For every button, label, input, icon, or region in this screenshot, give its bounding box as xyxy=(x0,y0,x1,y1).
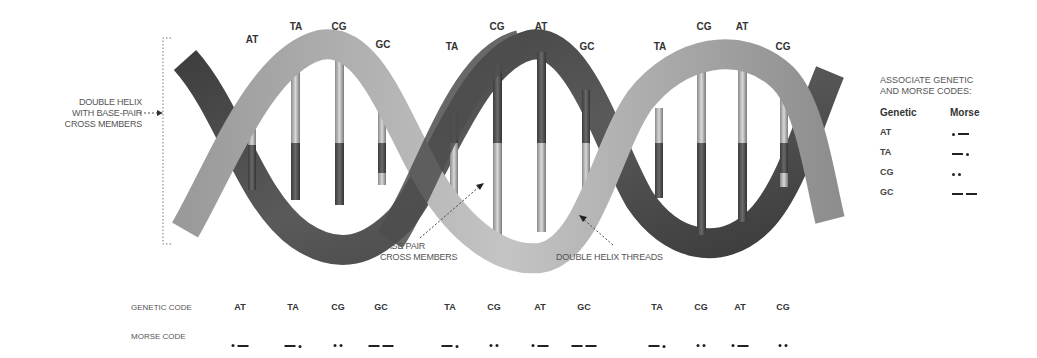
dot-icon xyxy=(732,344,735,347)
legend-title: ASSOCIATE GENETIC AND MORSE CODES: xyxy=(880,75,1010,97)
dot-icon xyxy=(340,344,343,347)
morse-symbol xyxy=(952,170,961,178)
dot-icon xyxy=(966,153,969,156)
sequence-genetic-code: TA xyxy=(444,302,455,312)
dash-icon xyxy=(952,153,963,155)
helix-annotation: DOUBLE HELIX WITH BASE-PAIR CROSS MEMBER… xyxy=(58,97,142,130)
sequence-genetic-code: GC xyxy=(577,302,591,312)
helix-label: CG xyxy=(332,21,347,32)
helix-label: GC xyxy=(376,39,391,50)
helix-label: CG xyxy=(697,21,712,32)
dot-icon xyxy=(299,345,302,348)
legend-row: TA xyxy=(880,147,1010,167)
morse-symbol xyxy=(649,342,666,350)
morse-symbol xyxy=(952,130,969,138)
morse-symbol xyxy=(732,342,749,350)
sequence-genetic-code: TA xyxy=(287,302,298,312)
helix-bracket xyxy=(163,38,171,244)
dash-icon xyxy=(586,345,597,347)
dot-icon xyxy=(663,345,666,348)
helix-label: TA xyxy=(654,41,667,52)
genetic-code-label: GENETIC CODE xyxy=(131,303,192,312)
legend-rows: ATTACGGC xyxy=(880,127,1010,207)
morse-symbol xyxy=(369,342,394,350)
sequence-morse-code xyxy=(532,333,549,351)
base-pair-annotation: BASE PAIR CROSS MEMBERS xyxy=(380,241,457,263)
helix-label: GC xyxy=(580,41,595,52)
dash-icon xyxy=(649,345,660,347)
helix-label: AT xyxy=(246,34,259,45)
legend-code: CG xyxy=(880,167,894,177)
dot-icon xyxy=(958,173,961,176)
helix-label: CG xyxy=(776,41,791,52)
dash-icon xyxy=(966,193,977,195)
dot-icon xyxy=(334,344,337,347)
sequence-morse-code xyxy=(442,333,459,351)
morse-symbol xyxy=(952,190,977,198)
sequence-genetic-code: CG xyxy=(331,302,345,312)
legend-col-morse: Morse xyxy=(950,107,979,118)
morse-symbol xyxy=(442,342,459,350)
sequence-morse-code xyxy=(490,333,499,351)
dash-icon xyxy=(238,345,249,347)
helix-label: AT xyxy=(736,21,749,32)
sequence-genetic-code: CG xyxy=(776,302,790,312)
sequence-genetic-code: AT xyxy=(534,302,545,312)
dot-icon xyxy=(490,344,493,347)
dash-icon xyxy=(952,193,963,195)
sequence-genetic-code: TA xyxy=(651,302,662,312)
dash-icon xyxy=(285,345,296,347)
morse-symbol xyxy=(572,342,597,350)
sequence-morse-code xyxy=(732,333,749,351)
sequence-morse-code xyxy=(779,333,788,351)
dot-icon xyxy=(952,133,955,136)
dash-icon xyxy=(442,345,453,347)
dash-icon xyxy=(383,345,394,347)
sequence-genetic-code: CG xyxy=(487,302,501,312)
dash-icon xyxy=(958,133,969,135)
legend-code: TA xyxy=(880,147,891,157)
legend-col-genetic: Genetic xyxy=(880,107,917,118)
dot-icon xyxy=(456,345,459,348)
dot-icon xyxy=(785,344,788,347)
helix-label: TA xyxy=(290,21,303,32)
legend: ASSOCIATE GENETIC AND MORSE CODES: Genet… xyxy=(880,75,1010,207)
legend-row: GC xyxy=(880,187,1010,207)
dot-icon xyxy=(496,344,499,347)
sequence-morse-code xyxy=(334,333,343,351)
morse-symbol xyxy=(697,342,706,350)
sequence-morse-code xyxy=(649,333,666,351)
sequence-morse-code xyxy=(285,333,302,351)
morse-symbol xyxy=(532,342,549,350)
legend-row: CG xyxy=(880,167,1010,187)
morse-symbol xyxy=(779,342,788,350)
morse-symbol xyxy=(952,150,969,158)
morse-symbol xyxy=(285,342,302,350)
morse-symbol xyxy=(490,342,499,350)
morse-symbol xyxy=(334,342,343,350)
threads-annotation: DOUBLE HELIX THREADS xyxy=(556,252,663,263)
dot-icon xyxy=(232,344,235,347)
helix-label: TA xyxy=(446,41,459,52)
sequence-morse-code xyxy=(572,333,597,351)
dot-icon xyxy=(952,173,955,176)
legend-code: AT xyxy=(880,127,891,137)
helix-label: CG xyxy=(490,21,505,32)
dot-icon xyxy=(532,344,535,347)
dash-icon xyxy=(369,345,380,347)
base-pair-rods xyxy=(248,52,788,235)
legend-row: AT xyxy=(880,127,1010,147)
sequence-genetic-code: AT xyxy=(234,302,245,312)
dot-icon xyxy=(703,344,706,347)
sequence-genetic-code: AT xyxy=(734,302,745,312)
sequence-morse-code xyxy=(232,333,249,351)
morse-code-label: MORSE CODE xyxy=(131,332,186,341)
dash-icon xyxy=(538,345,549,347)
dot-icon xyxy=(779,344,782,347)
morse-symbol xyxy=(232,342,249,350)
dash-icon xyxy=(572,345,583,347)
sequence-morse-code xyxy=(697,333,706,351)
dot-icon xyxy=(697,344,700,347)
sequence-genetic-code: GC xyxy=(374,302,388,312)
sequence-genetic-code: CG xyxy=(694,302,708,312)
